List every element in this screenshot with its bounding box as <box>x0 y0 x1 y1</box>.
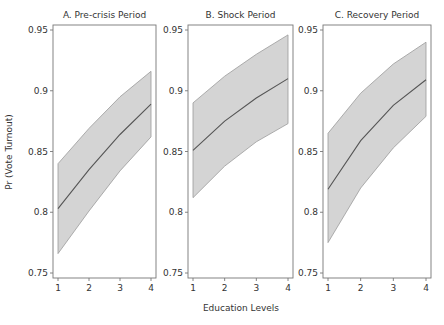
y-tick-label: 0.85 <box>163 147 183 157</box>
y-tick-label: 0.75 <box>298 268 318 278</box>
x-tick-label: 3 <box>390 283 396 293</box>
confidence-band <box>58 71 151 253</box>
y-tick-label: 0.9 <box>169 86 184 96</box>
y-tick-label: 0.95 <box>163 25 183 35</box>
panel-title: A. Pre-crisis Period <box>63 10 146 20</box>
confidence-band <box>193 35 288 198</box>
y-tick-label: 0.8 <box>304 207 319 217</box>
y-tick-label: 0.8 <box>34 207 49 217</box>
y-tick-label: 0.8 <box>169 207 184 217</box>
panel-title: C. Recovery Period <box>335 10 420 20</box>
x-tick-label: 4 <box>285 283 291 293</box>
x-axis-label: Education Levels <box>203 303 279 313</box>
x-tick-label: 4 <box>148 283 154 293</box>
y-tick-label: 0.9 <box>34 86 49 96</box>
y-tick-label: 0.75 <box>163 268 183 278</box>
y-tick-label: 0.95 <box>298 25 318 35</box>
panel-3: C. Recovery Period0.750.80.850.90.951234 <box>298 10 431 293</box>
x-tick-label: 3 <box>117 283 123 293</box>
x-tick-label: 2 <box>358 283 364 293</box>
x-tick-label: 2 <box>222 283 228 293</box>
panel-2: B. Shock Period0.750.80.850.90.951234 <box>163 10 293 293</box>
x-tick-label: 1 <box>325 283 331 293</box>
x-tick-label: 3 <box>253 283 259 293</box>
y-tick-label: 0.95 <box>28 25 48 35</box>
x-tick-label: 2 <box>86 283 92 293</box>
y-tick-label: 0.85 <box>28 147 48 157</box>
y-tick-label: 0.75 <box>28 268 48 278</box>
x-tick-label: 4 <box>423 283 429 293</box>
y-axis-label: Pr (Vote Turnout) <box>4 114 14 190</box>
x-tick-label: 1 <box>190 283 196 293</box>
panel-title: B. Shock Period <box>206 10 276 20</box>
y-tick-label: 0.85 <box>298 147 318 157</box>
x-tick-label: 1 <box>55 283 61 293</box>
confidence-band <box>328 42 426 242</box>
chart: A. Pre-crisis Period0.750.80.850.90.9512… <box>0 0 444 325</box>
y-tick-label: 0.9 <box>304 86 319 96</box>
panel-1: A. Pre-crisis Period0.750.80.850.90.9512… <box>28 10 156 293</box>
